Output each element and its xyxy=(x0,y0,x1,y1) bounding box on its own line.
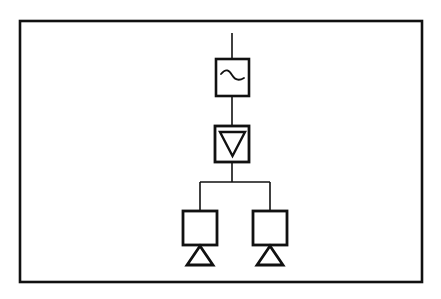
output-block-right[interactable] xyxy=(253,211,287,245)
block-diagram xyxy=(0,0,441,299)
output-block-left[interactable] xyxy=(183,211,217,245)
diagram-canvas xyxy=(0,0,441,299)
